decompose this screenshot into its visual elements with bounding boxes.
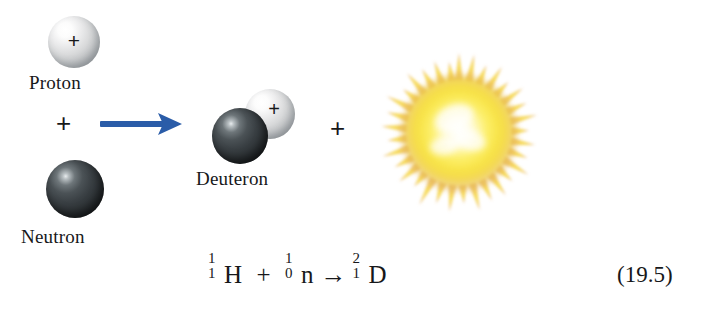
neutron-atomic-number: 0: [285, 266, 293, 281]
equation-plus-operator: +: [256, 261, 270, 289]
proton-label: Proton: [29, 72, 81, 94]
neutron-label: Neutron: [21, 226, 85, 248]
deuterium-mass-number: 2: [352, 251, 360, 266]
equation-number: (19.5): [617, 262, 673, 288]
deuteron-neutron-sphere: [212, 108, 268, 164]
deuteron-charge-plus: +: [262, 99, 286, 119]
nuclear-equation: 1 1 H + 1 0 n→ 2 1 D: [208, 258, 387, 290]
hydrogen-symbol: H: [224, 261, 242, 289]
deuterium-atomic-number: 1: [352, 266, 360, 281]
proton-charge-plus: +: [48, 30, 100, 51]
deuterium-symbol: D: [368, 261, 386, 289]
reaction-arrow: [100, 107, 184, 141]
reactant-plus-operator: +: [56, 110, 71, 136]
neutron-symbol: n: [301, 261, 314, 289]
deuteron-label: Deuteron: [196, 168, 268, 190]
hydrogen-nuclide: 1 1: [208, 258, 224, 283]
product-plus-operator: +: [330, 115, 345, 141]
hydrogen-mass-number: 1: [208, 251, 216, 266]
neutron-nuclide: 1 0: [285, 258, 301, 283]
neutron-sphere: [46, 160, 104, 218]
neutron-mass-number: 1: [285, 251, 293, 266]
equation-arrow: →: [320, 260, 346, 290]
deuterium-nuclide: 2 1: [352, 258, 368, 283]
energy-burst-icon: [374, 48, 544, 218]
hydrogen-atomic-number: 1: [208, 266, 216, 281]
figure-canvas: + Proton + Neutron + Deuteron +: [0, 0, 725, 322]
